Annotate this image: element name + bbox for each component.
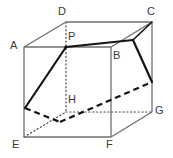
cut-segment-P-Q <box>25 47 66 108</box>
cut-section-hidden-group <box>25 82 152 122</box>
point-P-marker <box>64 45 67 48</box>
vertex-label-F: F <box>106 139 113 150</box>
point-label-P: P <box>68 31 75 42</box>
edge-BC <box>111 22 152 47</box>
vertex-label-B: B <box>113 50 120 61</box>
vertex-label-A: A <box>10 40 17 51</box>
cube-diagram-svg <box>0 0 173 158</box>
edge-AD <box>24 22 66 47</box>
vertex-label-D: D <box>58 6 66 17</box>
vertex-label-E: E <box>12 139 19 150</box>
cut-segment-S-T <box>133 40 152 82</box>
cut-segment-Q-R <box>25 108 60 122</box>
cut-segment-S-C <box>133 22 152 40</box>
vertex-label-C: C <box>147 6 155 17</box>
cut-segment-P-S <box>66 40 133 47</box>
vertex-label-H: H <box>68 94 76 105</box>
geometry-figure: A B C D E F G H P <box>0 0 173 158</box>
vertex-label-G: G <box>155 105 164 116</box>
edge-FG <box>111 112 152 137</box>
